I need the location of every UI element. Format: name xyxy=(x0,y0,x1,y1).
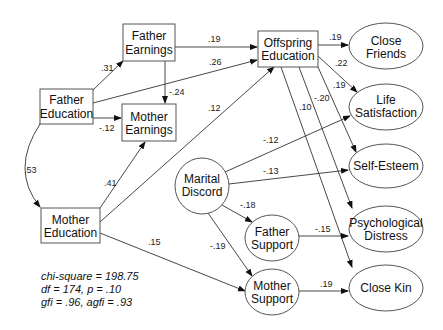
fit-gfi-agfi: gfi = .96, agfi = .93 xyxy=(41,296,133,308)
edge-med-mearn xyxy=(100,142,145,208)
node-close-kin: Close Kin xyxy=(349,265,423,311)
coef-fearn-off: .19 xyxy=(208,34,221,44)
coef-fearn-mearn: -.24 xyxy=(169,87,185,97)
svg-text:Self-Esteem: Self-Esteem xyxy=(353,159,418,173)
svg-text:Earnings: Earnings xyxy=(125,43,172,57)
svg-text:Discord: Discord xyxy=(182,185,223,199)
coef-med-mearn: .41 xyxy=(104,178,117,188)
node-life-satisfaction: Life Satisfaction xyxy=(349,84,423,130)
svg-text:Psychological: Psychological xyxy=(349,216,422,230)
svg-text:Distress: Distress xyxy=(364,229,407,243)
svg-text:Education: Education xyxy=(44,226,97,240)
node-father-education: Father Education xyxy=(40,89,93,124)
coef-fed-med-cov: .53 xyxy=(24,165,37,175)
coef-fs-pd: -.15 xyxy=(315,224,331,234)
fit-df-p: df = 174, p = .10 xyxy=(41,283,122,295)
coef-md-ms: -.19 xyxy=(210,241,226,251)
svg-text:Support: Support xyxy=(251,238,294,252)
coef-fed-fearn: .31 xyxy=(101,63,114,73)
coef-ms-ck: .19 xyxy=(320,279,333,289)
svg-text:Education: Education xyxy=(261,49,314,63)
svg-text:Support: Support xyxy=(251,292,294,306)
svg-text:Life: Life xyxy=(376,93,396,107)
coef-med-msup: .15 xyxy=(148,237,161,247)
node-close-friends: Close Friends xyxy=(349,23,423,69)
node-psychological-distress: Psychological Distress xyxy=(349,206,423,252)
edge-md-se xyxy=(229,170,348,184)
svg-text:Education: Education xyxy=(40,107,93,121)
edge-md-ls xyxy=(225,116,350,172)
coef-fed-mearn: -.12 xyxy=(99,123,115,133)
fit-chi-square: chi-square = 198.75 xyxy=(41,270,139,282)
svg-text:Mother: Mother xyxy=(253,279,290,293)
coef-off-cf: .19 xyxy=(329,32,342,42)
svg-text:Close Kin: Close Kin xyxy=(360,281,411,295)
node-offspring-education: Offspring Education xyxy=(258,31,318,67)
coef-off-pd: -.20 xyxy=(314,93,330,103)
svg-text:Close: Close xyxy=(371,34,402,48)
svg-text:Satisfaction: Satisfaction xyxy=(355,106,417,120)
coef-med-off: .12 xyxy=(208,103,221,113)
node-marital-discord: Marital Discord xyxy=(175,158,229,214)
svg-text:Mother: Mother xyxy=(52,213,89,227)
path-diagram: .31 -.12 .26 .19 -.24 .41 .12 .15 .53 .1… xyxy=(0,0,443,330)
svg-text:Marital: Marital xyxy=(184,172,220,186)
coef-off-ck: .10 xyxy=(299,102,312,112)
node-mother-support: Mother Support xyxy=(245,269,299,315)
coef-off-ls: .22 xyxy=(335,58,348,68)
svg-text:Offspring: Offspring xyxy=(264,36,312,50)
node-mother-education: Mother Education xyxy=(41,208,100,243)
coefficients: .31 -.12 .26 .19 -.24 .41 .12 .15 .53 .1… xyxy=(24,32,348,289)
coef-md-fs: -.18 xyxy=(240,200,256,210)
coef-md-se: -.13 xyxy=(263,166,279,176)
svg-text:Father: Father xyxy=(49,93,84,107)
svg-text:Father: Father xyxy=(255,225,290,239)
svg-text:Father: Father xyxy=(132,29,167,43)
fit-statistics: chi-square = 198.75 df = 174, p = .10 gf… xyxy=(41,270,139,308)
coef-off-se: .19 xyxy=(333,80,346,90)
coef-fed-off: .26 xyxy=(209,57,222,67)
svg-text:Earnings: Earnings xyxy=(125,123,172,137)
node-self-esteem: Self-Esteem xyxy=(349,144,423,188)
node-mother-earnings: Mother Earnings xyxy=(122,104,176,141)
node-father-support: Father Support xyxy=(245,215,299,261)
coef-md-ls: -.12 xyxy=(263,135,279,145)
svg-text:Mother: Mother xyxy=(130,110,167,124)
node-father-earnings: Father Earnings xyxy=(123,24,175,61)
svg-text:Friends: Friends xyxy=(366,47,406,61)
